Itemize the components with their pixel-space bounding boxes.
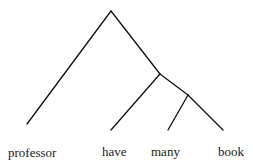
branch-node2-many bbox=[168, 95, 188, 130]
branch-root-professor bbox=[27, 11, 111, 124]
branch-node1-node2 bbox=[160, 74, 188, 95]
leaf-label-have: have bbox=[102, 145, 127, 158]
branch-root-node1 bbox=[111, 11, 160, 74]
leaf-label-book: book bbox=[218, 145, 244, 158]
tree-branches bbox=[0, 0, 253, 168]
leaf-label-professor: professor bbox=[8, 146, 56, 159]
branch-node1-have bbox=[111, 74, 160, 130]
branch-node2-book bbox=[188, 95, 223, 130]
tree-diagram: professor have many book bbox=[0, 0, 253, 168]
leaf-label-many: many bbox=[151, 145, 180, 158]
